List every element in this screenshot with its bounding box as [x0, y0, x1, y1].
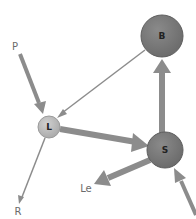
edge-p-to-l: [20, 54, 46, 114]
flow-diagram: B L S P R Le: [0, 0, 196, 219]
node-b-label: B: [159, 31, 166, 41]
label-le: Le: [80, 183, 92, 194]
node-b[interactable]: B: [141, 15, 183, 57]
label-p: P: [12, 41, 18, 52]
edge-l-to-s: [60, 129, 149, 152]
edge-b-to-l: [57, 50, 145, 118]
edge-l-to-r: [18, 138, 45, 204]
label-r: R: [15, 206, 22, 217]
node-l-label: L: [46, 122, 52, 132]
node-s-label: S: [162, 145, 168, 155]
node-l[interactable]: L: [38, 116, 60, 138]
edge-s-to-b: [153, 59, 171, 133]
edge-offscreen-to-s: [174, 168, 196, 215]
edge-s-to-le: [94, 160, 150, 186]
node-s[interactable]: S: [147, 132, 183, 168]
